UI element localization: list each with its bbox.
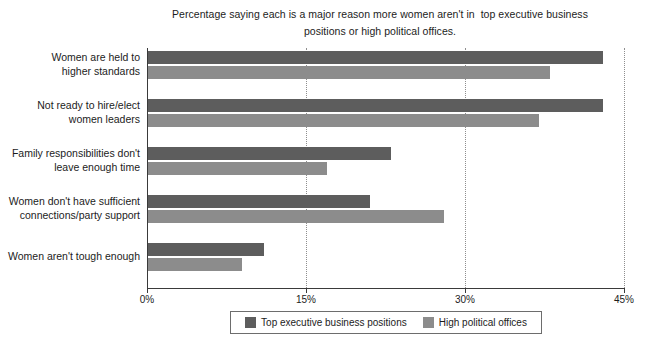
- x-tick-45%: [624, 288, 625, 293]
- x-tick-30%: [465, 288, 466, 293]
- bar-top-executive-0[interactable]: [147, 51, 603, 64]
- chart-legend: Top executive business positions High po…: [230, 311, 542, 334]
- x-tick-label-45%: 45%: [614, 294, 634, 305]
- y-category-label-2: Family responsibilities don't leave enou…: [0, 146, 140, 174]
- plot-wrapper: 0%15%30%45% Women are held to higher sta…: [0, 0, 652, 346]
- x-tick-15%: [306, 288, 307, 293]
- y-axis-line: [147, 48, 148, 289]
- x-tick-0%: [147, 288, 148, 293]
- y-category-label-0: Women are held to higher standards: [0, 50, 140, 78]
- bar-group: [147, 195, 624, 223]
- y-category-label-3: Women don't have sufficient connections/…: [0, 194, 140, 222]
- bar-top-executive-4[interactable]: [147, 243, 264, 256]
- bar-group: [147, 243, 624, 271]
- bar-top-executive-2[interactable]: [147, 147, 391, 160]
- bar-group: [147, 51, 624, 79]
- legend-swatch-icon: [245, 317, 256, 328]
- bar-political-3[interactable]: [147, 210, 444, 223]
- y-category-label-1: Not ready to hire/elect women leaders: [0, 98, 140, 126]
- x-tick-label-30%: 30%: [455, 294, 475, 305]
- bar-political-1[interactable]: [147, 114, 539, 127]
- bar-political-0[interactable]: [147, 66, 550, 79]
- legend-label: Top executive business positions: [261, 317, 407, 328]
- legend-label: High political offices: [439, 317, 527, 328]
- legend-swatch-icon: [423, 317, 434, 328]
- bar-political-2[interactable]: [147, 162, 327, 175]
- bar-political-4[interactable]: [147, 258, 242, 271]
- plot-area: [147, 48, 624, 288]
- bar-group: [147, 147, 624, 175]
- bar-top-executive-1[interactable]: [147, 99, 603, 112]
- legend-item-top-executive-business-positions[interactable]: Top executive business positions: [245, 317, 407, 328]
- x-tick-label-0%: 0%: [140, 294, 154, 305]
- bar-top-executive-3[interactable]: [147, 195, 370, 208]
- bar-group: [147, 99, 624, 127]
- x-tick-label-15%: 15%: [296, 294, 316, 305]
- gridline-45%: [624, 48, 626, 288]
- legend-item-high-political-offices[interactable]: High political offices: [423, 317, 527, 328]
- x-axis-line: [147, 288, 625, 289]
- y-category-label-4: Women aren't tough enough: [0, 249, 140, 263]
